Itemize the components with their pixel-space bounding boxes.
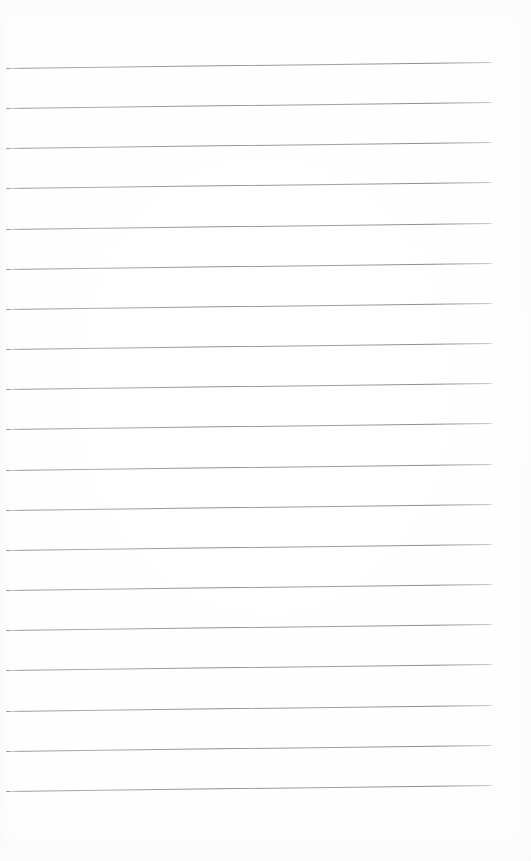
notebook-page	[0, 0, 531, 861]
writing-area[interactable]	[6, 60, 493, 800]
